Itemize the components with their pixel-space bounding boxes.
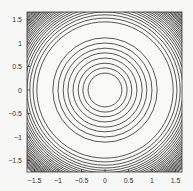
x-tick-label: 1.5 bbox=[171, 177, 181, 184]
y-tick-label: −0.5 bbox=[8, 110, 22, 117]
x-tick-label: 0.5 bbox=[124, 177, 134, 184]
y-tick-label: −1.5 bbox=[8, 157, 22, 164]
y-tick-label: 1.5 bbox=[12, 16, 22, 23]
y-tick-label: 1 bbox=[18, 40, 22, 47]
x-tick-label: 1 bbox=[150, 177, 154, 184]
y-tick-label: 0.5 bbox=[12, 63, 22, 70]
plot-area bbox=[27, 12, 182, 172]
y-tick-label: −1 bbox=[14, 134, 22, 141]
x-tick-label: −1.5 bbox=[28, 177, 42, 184]
x-tick-label: −1 bbox=[54, 177, 62, 184]
y-tick-label: 0 bbox=[18, 87, 22, 94]
x-tick-label: 0 bbox=[103, 177, 107, 184]
x-tick-label: −0.5 bbox=[75, 177, 89, 184]
contour-plot: −1.5−1−0.500.511.5 1.510.50−0.5−1−1.5 bbox=[0, 0, 193, 191]
